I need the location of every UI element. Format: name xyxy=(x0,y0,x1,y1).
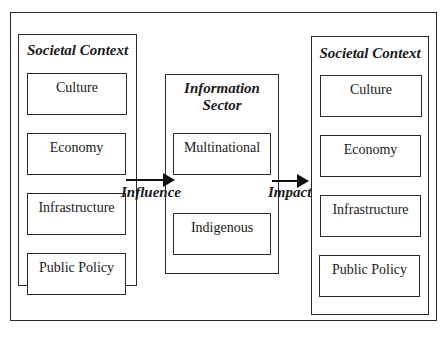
right-item-infrastructure: Infrastructure xyxy=(320,195,421,237)
impact-arrow-icon xyxy=(272,180,298,182)
right-item-economy: Economy xyxy=(320,135,421,177)
right-panel-title: Societal Context xyxy=(312,45,428,62)
left-societal-context-panel: Societal Context Culture Economy Infrast… xyxy=(18,34,137,286)
left-item-economy: Economy xyxy=(27,133,126,175)
right-item-culture: Culture xyxy=(320,75,422,117)
left-item-public-policy: Public Policy xyxy=(27,253,126,295)
center-item-indigenous: Indigenous xyxy=(173,213,271,255)
right-societal-context-panel: Societal Context Culture Economy Infrast… xyxy=(311,36,429,315)
center-panel-title-line2: Sector xyxy=(166,97,278,114)
center-item-multinational: Multinational xyxy=(173,133,271,175)
influence-arrow-icon xyxy=(126,179,164,181)
left-item-culture: Culture xyxy=(27,73,127,115)
impact-label: Impact xyxy=(268,184,311,201)
information-sector-panel: Information Sector Multinational Indigen… xyxy=(165,74,279,274)
center-panel-title-line1: Information xyxy=(166,80,278,97)
left-item-infrastructure: Infrastructure xyxy=(27,193,126,235)
influence-label: Influence xyxy=(121,184,181,201)
left-panel-title: Societal Context xyxy=(19,42,136,59)
right-item-public-policy: Public Policy xyxy=(319,255,420,297)
